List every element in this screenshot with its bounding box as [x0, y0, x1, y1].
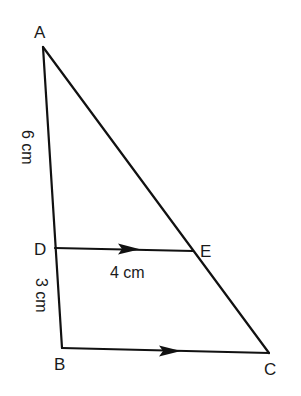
measure-DE: 4 cm [110, 264, 145, 281]
label-B: B [54, 355, 65, 374]
label-A: A [34, 23, 46, 42]
label-E: E [200, 242, 211, 261]
label-C: C [264, 360, 276, 379]
measure-AD: 6 cm [19, 130, 36, 165]
side-AC [43, 47, 269, 353]
triangle-diagram: A D E B C 6 cm 3 cm 4 cm [0, 0, 301, 396]
measure-DB: 3 cm [33, 278, 50, 313]
label-D: D [34, 240, 46, 259]
